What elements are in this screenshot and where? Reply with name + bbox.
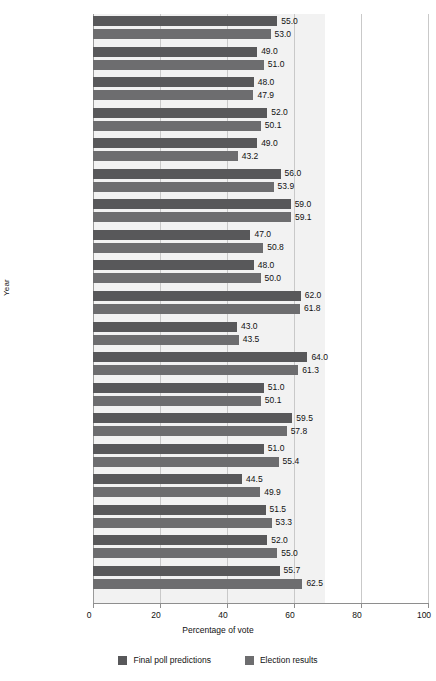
bar <box>93 151 238 161</box>
bar <box>93 457 279 467</box>
bar-row: 51.0 <box>93 444 428 454</box>
bar <box>93 199 291 209</box>
bar-row: 44.5 <box>93 474 428 484</box>
bar-row: 57.8 <box>93 426 428 436</box>
bar-row: 56.0 <box>93 169 428 179</box>
bar-value-label: 50.1 <box>265 120 282 131</box>
bar <box>93 47 257 57</box>
bar-value-label: 47.9 <box>257 90 274 101</box>
bar <box>93 108 267 118</box>
bar-value-label: 47.0 <box>254 229 271 240</box>
bar-row: 50.1 <box>93 121 428 131</box>
bar-value-label: 43.0 <box>241 321 258 332</box>
bar <box>93 60 264 70</box>
bar-row: 61.8 <box>93 304 428 314</box>
bar-row: 53.3 <box>93 518 428 528</box>
bar-row: 49.0 <box>93 138 428 148</box>
bar-value-label: 50.8 <box>267 242 284 253</box>
bar-value-label: 64.0 <box>311 352 328 363</box>
bar-row: 51.0 <box>93 60 428 70</box>
bar <box>93 212 291 222</box>
bar-value-label: 57.8 <box>291 426 308 437</box>
bar <box>93 273 261 283</box>
bar-row: 48.0 <box>93 260 428 270</box>
bar <box>93 383 264 393</box>
bar-value-label: 51.0 <box>268 59 285 70</box>
bar-value-label: 55.0 <box>281 16 298 27</box>
bar-row: 51.5 <box>93 505 428 515</box>
bar-value-label: 56.0 <box>285 168 302 179</box>
bar-value-label: 59.0 <box>295 199 312 210</box>
bar <box>93 16 277 26</box>
bar <box>93 535 267 545</box>
bar <box>93 90 253 100</box>
bar-value-label: 48.0 <box>258 260 275 271</box>
bar-value-label: 49.9 <box>264 487 281 498</box>
bar-row: 59.5 <box>93 413 428 423</box>
bar-row: 55.0 <box>93 548 428 558</box>
legend-swatch-results <box>245 656 254 665</box>
bar-value-label: 53.3 <box>276 517 293 528</box>
legend-swatch-poll <box>118 656 127 665</box>
bar-row: 64.0 <box>93 352 428 362</box>
bar-value-label: 61.3 <box>302 365 319 376</box>
bar-row: 50.1 <box>93 396 428 406</box>
bar <box>93 77 254 87</box>
bar <box>93 29 271 39</box>
bar-row: 43.0 <box>93 322 428 332</box>
bar-value-label: 50.0 <box>265 273 282 284</box>
bar-row: 52.0 <box>93 535 428 545</box>
bar-row: 53.0 <box>93 29 428 39</box>
bar-row: 49.0 <box>93 47 428 57</box>
bar <box>93 413 292 423</box>
bar <box>93 518 272 528</box>
bar-value-label: 53.9 <box>278 181 295 192</box>
bar-row: 48.0 <box>93 77 428 87</box>
bar-row: 61.3 <box>93 365 428 375</box>
bar-value-label: 49.0 <box>261 138 278 149</box>
x-tick-40 <box>227 603 228 608</box>
legend-label: Election results <box>260 655 318 665</box>
bar-row: 43.2 <box>93 151 428 161</box>
plot-area: 2008Obama55.053.02004Bush, G.W.49.051.02… <box>93 14 428 603</box>
bar-row: 59.1 <box>93 212 428 222</box>
bar-row: 62.5 <box>93 579 428 589</box>
bar-value-label: 55.7 <box>284 565 301 576</box>
bar-value-label: 43.5 <box>243 334 260 345</box>
bar-value-label: 52.0 <box>271 535 288 546</box>
bar-row: 53.9 <box>93 182 428 192</box>
bar-row: 59.0 <box>93 199 428 209</box>
bar <box>93 169 281 179</box>
y-axis-title: Year <box>2 256 11 296</box>
x-tick-label-80: 80 <box>352 610 361 620</box>
bar-value-label: 62.5 <box>306 578 323 589</box>
bar-value-label: 50.1 <box>265 395 282 406</box>
bar-value-label: 48.0 <box>258 77 275 88</box>
legend-item: Election results <box>245 655 318 665</box>
bar <box>93 121 261 131</box>
bar <box>93 291 301 301</box>
bar <box>93 548 277 558</box>
bar-value-label: 53.0 <box>275 29 292 40</box>
chart-legend: Final poll predictionsElection results <box>0 655 436 665</box>
bar <box>93 335 239 345</box>
bar <box>93 322 237 332</box>
bar-value-label: 44.5 <box>246 474 263 485</box>
legend-item: Final poll predictions <box>118 655 210 665</box>
bar-row: 47.0 <box>93 230 428 240</box>
bar-value-label: 61.8 <box>304 303 321 314</box>
bar-value-label: 55.4 <box>283 456 300 467</box>
bar-value-label: 51.0 <box>268 443 285 454</box>
bar-value-label: 55.0 <box>281 548 298 559</box>
bar <box>93 182 274 192</box>
bar <box>93 352 307 362</box>
bar <box>93 230 250 240</box>
bar-row: 55.7 <box>93 566 428 576</box>
bar-value-label: 59.1 <box>295 212 312 223</box>
x-tick-80 <box>361 603 362 608</box>
bar <box>93 505 266 515</box>
bar-row: 52.0 <box>93 108 428 118</box>
bar <box>93 444 264 454</box>
bar <box>93 487 260 497</box>
bar-row: 43.5 <box>93 335 428 345</box>
